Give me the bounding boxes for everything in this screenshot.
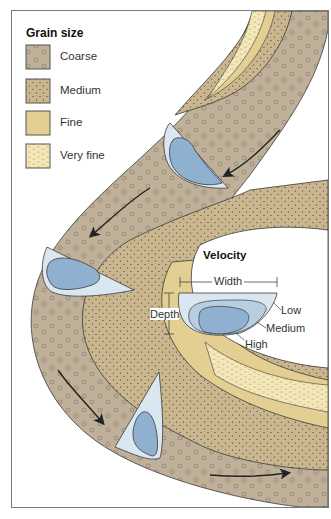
- velocity-title: Velocity: [203, 249, 246, 261]
- legend-swatch-medium: [26, 79, 50, 103]
- legend-swatch-coarse: [26, 45, 50, 69]
- legend-swatch-fine: [26, 111, 50, 135]
- meandering-river-diagram: [0, 0, 331, 519]
- legend-label-fine: Fine: [60, 116, 82, 128]
- legend-swatch-very-fine: [26, 144, 50, 168]
- width-label: Width: [212, 275, 244, 287]
- legend-label-coarse: Coarse: [60, 50, 97, 62]
- velocity-label-medium: Medium: [266, 322, 305, 334]
- velocity-label-low: Low: [281, 304, 301, 316]
- legend-label-very-fine: Very fine: [60, 149, 105, 161]
- velocity-label-high: High: [245, 338, 268, 350]
- depth-label: Depth: [150, 308, 179, 320]
- legend-label-medium: Medium: [60, 84, 101, 96]
- legend-title: Grain size: [26, 26, 83, 40]
